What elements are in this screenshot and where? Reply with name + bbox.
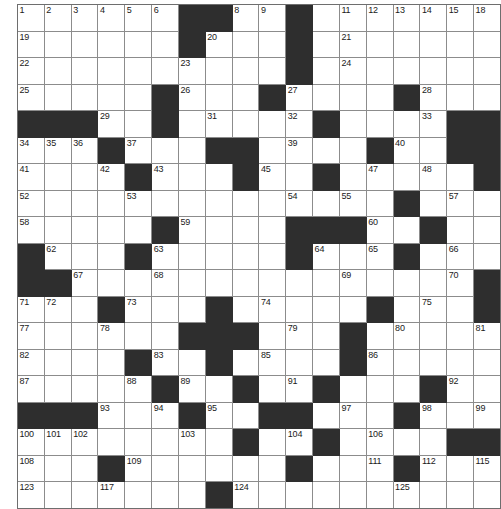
crossword-cell[interactable] bbox=[447, 296, 474, 323]
crossword-cell[interactable]: 87 bbox=[18, 376, 45, 403]
crossword-cell[interactable]: 77 bbox=[18, 323, 45, 350]
crossword-cell[interactable] bbox=[98, 217, 125, 244]
crossword-cell[interactable]: 58 bbox=[18, 217, 45, 244]
crossword-cell[interactable] bbox=[339, 376, 366, 403]
crossword-cell[interactable]: 108 bbox=[18, 455, 45, 482]
crossword-cell[interactable]: 100 bbox=[18, 429, 45, 456]
crossword-cell[interactable] bbox=[339, 482, 366, 509]
crossword-cell[interactable] bbox=[447, 84, 474, 111]
crossword-cell[interactable]: 94 bbox=[152, 402, 179, 429]
crossword-cell[interactable]: 70 bbox=[447, 270, 474, 297]
crossword-cell[interactable]: 102 bbox=[71, 429, 98, 456]
crossword-cell[interactable] bbox=[366, 376, 393, 403]
crossword-cell[interactable]: 109 bbox=[125, 455, 152, 482]
crossword-cell[interactable] bbox=[393, 111, 420, 138]
crossword-cell[interactable] bbox=[152, 482, 179, 509]
crossword-cell[interactable]: 123 bbox=[18, 482, 45, 509]
crossword-cell[interactable] bbox=[259, 58, 286, 85]
crossword-cell[interactable] bbox=[44, 164, 71, 191]
crossword-cell[interactable]: 6 bbox=[152, 5, 179, 32]
crossword-cell[interactable]: 103 bbox=[178, 429, 205, 456]
crossword-cell[interactable]: 9 bbox=[259, 5, 286, 32]
crossword-cell[interactable]: 115 bbox=[474, 455, 501, 482]
crossword-cell[interactable] bbox=[205, 243, 232, 270]
crossword-cell[interactable] bbox=[393, 296, 420, 323]
crossword-cell[interactable] bbox=[71, 323, 98, 350]
crossword-cell[interactable] bbox=[125, 31, 152, 58]
crossword-cell[interactable] bbox=[98, 84, 125, 111]
crossword-cell[interactable] bbox=[71, 217, 98, 244]
crossword-cell[interactable]: 106 bbox=[366, 429, 393, 456]
crossword-cell[interactable]: 42 bbox=[98, 164, 125, 191]
crossword-cell[interactable]: 86 bbox=[366, 349, 393, 376]
crossword-cell[interactable] bbox=[366, 482, 393, 509]
crossword-cell[interactable]: 40 bbox=[393, 137, 420, 164]
crossword-cell[interactable] bbox=[44, 84, 71, 111]
crossword-cell[interactable] bbox=[232, 402, 259, 429]
crossword-cell[interactable]: 101 bbox=[44, 429, 71, 456]
crossword-cell[interactable]: 65 bbox=[366, 243, 393, 270]
crossword-cell[interactable] bbox=[339, 164, 366, 191]
crossword-cell[interactable]: 2 bbox=[44, 5, 71, 32]
crossword-cell[interactable] bbox=[286, 164, 313, 191]
crossword-cell[interactable] bbox=[152, 137, 179, 164]
crossword-cell[interactable] bbox=[178, 164, 205, 191]
crossword-cell[interactable] bbox=[313, 84, 340, 111]
crossword-grid[interactable]: 1234568911121314151819202122232425262728… bbox=[17, 4, 501, 509]
crossword-cell[interactable]: 80 bbox=[393, 323, 420, 350]
crossword-cell[interactable] bbox=[286, 349, 313, 376]
crossword-cell[interactable] bbox=[393, 349, 420, 376]
crossword-cell[interactable] bbox=[71, 190, 98, 217]
crossword-cell[interactable]: 117 bbox=[98, 482, 125, 509]
crossword-cell[interactable]: 28 bbox=[420, 84, 447, 111]
crossword-cell[interactable] bbox=[259, 243, 286, 270]
crossword-cell[interactable] bbox=[313, 482, 340, 509]
crossword-cell[interactable]: 95 bbox=[205, 402, 232, 429]
crossword-cell[interactable]: 75 bbox=[420, 296, 447, 323]
crossword-cell[interactable]: 112 bbox=[420, 455, 447, 482]
crossword-cell[interactable] bbox=[205, 84, 232, 111]
crossword-cell[interactable] bbox=[366, 111, 393, 138]
crossword-cell[interactable]: 24 bbox=[339, 58, 366, 85]
crossword-cell[interactable] bbox=[98, 270, 125, 297]
crossword-cell[interactable]: 1 bbox=[18, 5, 45, 32]
crossword-cell[interactable] bbox=[474, 349, 501, 376]
crossword-cell[interactable] bbox=[125, 482, 152, 509]
crossword-cell[interactable] bbox=[178, 111, 205, 138]
crossword-cell[interactable] bbox=[232, 31, 259, 58]
crossword-cell[interactable] bbox=[313, 270, 340, 297]
crossword-cell[interactable] bbox=[178, 296, 205, 323]
crossword-cell[interactable]: 21 bbox=[339, 31, 366, 58]
crossword-cell[interactable] bbox=[232, 58, 259, 85]
crossword-cell[interactable] bbox=[420, 349, 447, 376]
crossword-cell[interactable] bbox=[44, 58, 71, 85]
crossword-cell[interactable] bbox=[71, 296, 98, 323]
crossword-cell[interactable] bbox=[259, 455, 286, 482]
crossword-cell[interactable] bbox=[125, 58, 152, 85]
crossword-cell[interactable] bbox=[125, 429, 152, 456]
crossword-cell[interactable] bbox=[178, 455, 205, 482]
crossword-cell[interactable] bbox=[71, 376, 98, 403]
crossword-cell[interactable] bbox=[152, 31, 179, 58]
crossword-cell[interactable]: 14 bbox=[420, 5, 447, 32]
crossword-cell[interactable]: 71 bbox=[18, 296, 45, 323]
crossword-cell[interactable] bbox=[152, 429, 179, 456]
crossword-cell[interactable] bbox=[44, 482, 71, 509]
crossword-cell[interactable]: 33 bbox=[420, 111, 447, 138]
crossword-cell[interactable] bbox=[259, 217, 286, 244]
crossword-cell[interactable] bbox=[313, 58, 340, 85]
crossword-cell[interactable]: 104 bbox=[286, 429, 313, 456]
crossword-cell[interactable] bbox=[44, 31, 71, 58]
crossword-cell[interactable] bbox=[420, 243, 447, 270]
crossword-cell[interactable] bbox=[474, 482, 501, 509]
crossword-cell[interactable] bbox=[259, 429, 286, 456]
crossword-cell[interactable] bbox=[205, 376, 232, 403]
crossword-cell[interactable] bbox=[205, 164, 232, 191]
crossword-cell[interactable] bbox=[44, 349, 71, 376]
crossword-cell[interactable]: 79 bbox=[286, 323, 313, 350]
crossword-cell[interactable]: 59 bbox=[178, 217, 205, 244]
crossword-cell[interactable] bbox=[313, 349, 340, 376]
crossword-cell[interactable] bbox=[232, 455, 259, 482]
crossword-cell[interactable] bbox=[98, 349, 125, 376]
crossword-cell[interactable] bbox=[366, 84, 393, 111]
